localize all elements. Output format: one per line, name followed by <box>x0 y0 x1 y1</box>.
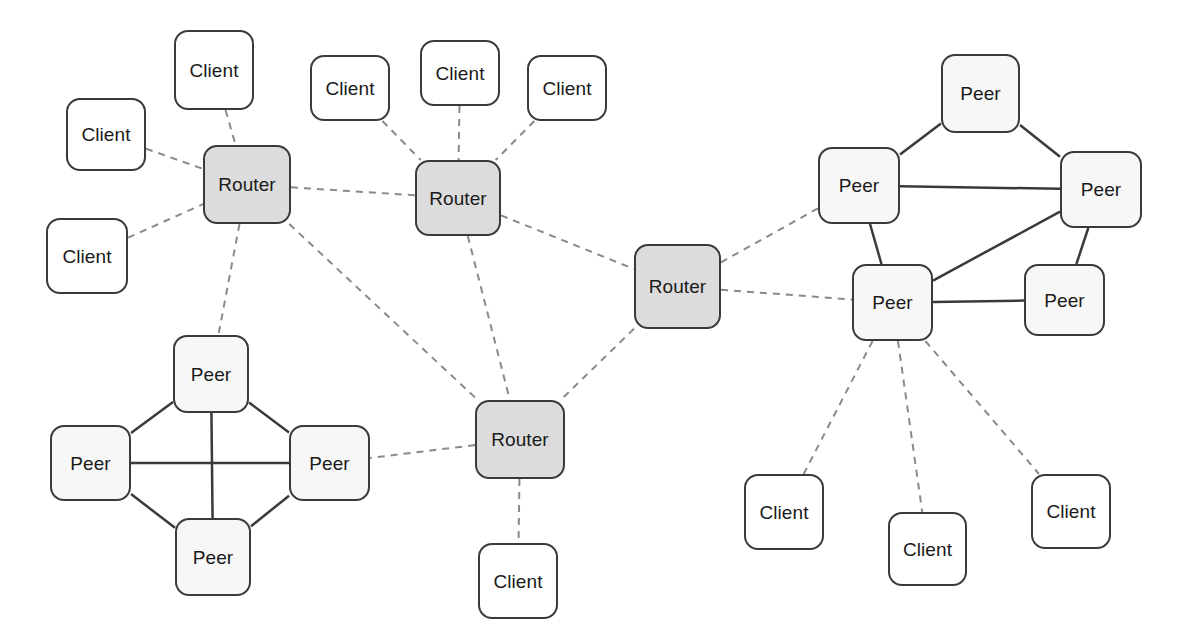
node-client-m1[interactable]: Client <box>310 55 390 121</box>
node-client-l1[interactable]: Client <box>174 30 254 110</box>
node-router-1[interactable]: Router <box>203 145 291 224</box>
node-peer-rl[interactable]: Peer <box>818 147 900 224</box>
node-label: Client <box>1046 502 1095 521</box>
node-label: Router <box>218 175 276 194</box>
node-peer-rt[interactable]: Peer <box>941 54 1020 133</box>
node-label: Client <box>542 79 591 98</box>
node-peer-rr[interactable]: Peer <box>1060 151 1142 228</box>
node-label: Peer <box>872 293 913 312</box>
node-label: Client <box>189 61 238 80</box>
node-label: Peer <box>960 84 1001 103</box>
node-client-m2[interactable]: Client <box>420 40 500 106</box>
node-label: Client <box>325 79 374 98</box>
node-peer-lb[interactable]: Peer <box>175 518 251 596</box>
node-label: Client <box>759 503 808 522</box>
node-label: Peer <box>309 454 350 473</box>
node-label: Client <box>81 125 130 144</box>
node-label: Client <box>435 64 484 83</box>
node-router-2[interactable]: Router <box>415 160 501 236</box>
node-label: Client <box>493 572 542 591</box>
node-label: Peer <box>839 176 880 195</box>
node-label: Router <box>429 189 487 208</box>
network-topology-diagram: ClientClientClientClientClientClientRout… <box>0 0 1179 640</box>
node-label: Peer <box>191 365 232 384</box>
node-router-3[interactable]: Router <box>634 244 721 329</box>
node-label: Router <box>491 430 549 449</box>
node-peer-lr[interactable]: Peer <box>289 425 370 501</box>
node-layer: ClientClientClientClientClientClientRout… <box>0 0 1179 640</box>
node-client-m3[interactable]: Client <box>527 55 607 121</box>
node-router-4[interactable]: Router <box>475 400 565 479</box>
node-peer-lt[interactable]: Peer <box>173 335 249 413</box>
node-label: Peer <box>1081 180 1122 199</box>
node-peer-rbl[interactable]: Peer <box>852 264 933 341</box>
node-label: Router <box>649 277 707 296</box>
node-peer-ll[interactable]: Peer <box>50 425 131 501</box>
node-label: Client <box>903 540 952 559</box>
node-client-b2[interactable]: Client <box>888 512 967 586</box>
node-client-b3[interactable]: Client <box>1031 474 1111 549</box>
node-label: Peer <box>193 548 234 567</box>
node-client-r4[interactable]: Client <box>478 543 558 619</box>
node-label: Peer <box>1044 291 1085 310</box>
node-client-l2[interactable]: Client <box>66 98 146 171</box>
node-label: Client <box>62 247 111 266</box>
node-client-b1[interactable]: Client <box>744 474 824 550</box>
node-label: Peer <box>70 454 111 473</box>
node-client-l3[interactable]: Client <box>46 218 128 294</box>
node-peer-rbr[interactable]: Peer <box>1024 264 1105 336</box>
